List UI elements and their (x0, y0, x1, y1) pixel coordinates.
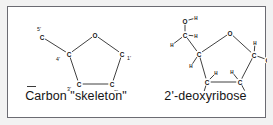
bond-O4-C1p (98, 37, 119, 52)
bond-O5p-H5O (188, 19, 193, 20)
bond-O4-C4p (72, 37, 92, 52)
bond-C5p-H5b (174, 37, 182, 43)
atom-label-C5p: C (40, 34, 45, 41)
bond-C4p-C5p (187, 38, 197, 51)
atom-H5b-h: H (169, 42, 174, 47)
bond-C1p-C2p (242, 58, 253, 79)
deoxyribose-structure: OCCCCCOHHHHHOHHOHHH (144, 7, 267, 91)
bond-C4p-C5p (45, 39, 66, 52)
atom-label-C1p: C (120, 51, 125, 58)
atom-number-C5p: 5' (37, 26, 41, 32)
atom-O4-o: O (226, 29, 233, 36)
atom-label-O4: O (93, 32, 98, 39)
atom-number-C4p: 4' (56, 56, 60, 62)
atom-label-C3p: C (77, 81, 82, 88)
atom-label-O5p: O (183, 18, 188, 25)
atom-O1p-o: O (264, 56, 267, 63)
caption-overbar-artifact (27, 86, 36, 87)
atom-C3p-c: C (203, 78, 210, 85)
atom-H5O-h: H (193, 15, 198, 20)
bond-C4p-C3p (200, 57, 206, 78)
atom-C4p-c: C4' (56, 50, 73, 62)
atom-label-C4p: C (67, 51, 72, 58)
carbon-skeleton-structure: OC4'C1'C3'C2'C5' (8, 7, 144, 91)
atom-number-C1p: 1' (127, 55, 131, 61)
atom-label-C5p: C (183, 32, 188, 39)
atom-C1p-c: C (250, 51, 257, 58)
atom-H4-h: H (188, 63, 193, 68)
atom-C5p-c: C5' (37, 26, 46, 41)
bond-C4p-C3p (70, 57, 78, 80)
atom-label-O1p: O (266, 57, 267, 64)
bond-C4p-H4 (192, 57, 197, 64)
atom-label-C2p: C (110, 81, 115, 88)
bond-O4-C4p (202, 35, 227, 52)
panel-carbon-skeleton: OC4'C1'C3'C2'C5' Carbon "skeleton" (8, 7, 144, 117)
atom-O5p-o: O (181, 17, 188, 24)
atom-O4-o: O (91, 31, 98, 38)
atom-label-C1p: C (252, 52, 257, 59)
atom-label-C4p: C (197, 51, 202, 58)
atom-H1-h: H (252, 40, 257, 45)
panel-container: OC4'C1'C3'C2'C5' Carbon "skeleton" OCCCC… (8, 7, 265, 117)
atom-label-O4: O (228, 30, 233, 37)
bond-C3p-H3 (210, 75, 215, 80)
atom-C5p-c: C (181, 31, 188, 38)
caption-carbon-skeleton: Carbon "skeleton" (8, 89, 144, 104)
bond-C1p-C2p (113, 57, 121, 80)
figure-root: OC4'C1'C3'C2'C5' Carbon "skeleton" OCCCC… (0, 0, 273, 125)
panel-deoxyribose: OCCCCCOHHHHHOHHOHHH 2'-deoxyribose (144, 7, 267, 117)
atom-C2p-c: C (236, 78, 243, 85)
atom-label-C3p: C (205, 79, 210, 86)
atom-H2a-h: H (229, 69, 234, 74)
atom-label-C2p: C (238, 79, 243, 86)
figure-frame: OC4'C1'C3'C2'C5' Carbon "skeleton" OCCCC… (7, 6, 266, 118)
bond-C1p-O1p (257, 56, 264, 59)
bond-O4-C1p (233, 35, 252, 52)
atom-H5a-h: H (193, 33, 198, 38)
atom-H3-h: H (213, 70, 218, 75)
caption-deoxyribose: 2'-deoxyribose (144, 89, 267, 104)
atom-C4p-c: C (195, 50, 202, 57)
